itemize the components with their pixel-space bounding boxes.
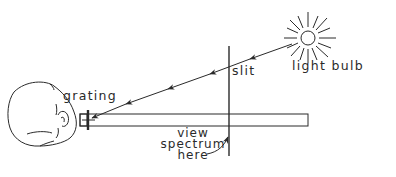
light-bulb-label: light bulb	[292, 60, 364, 73]
light-bulb-icon	[284, 12, 336, 63]
view-label-line3: here	[158, 150, 228, 161]
grating-icon	[80, 110, 95, 130]
slit-label: slit	[232, 65, 256, 78]
grating-label: grating	[63, 90, 117, 103]
view-spectrum-label: view spectrum here	[158, 128, 228, 161]
light-ray	[92, 44, 292, 118]
spectroscope-diagram: light bulb slit grating view spectrum he…	[0, 0, 396, 177]
viewing-tube	[80, 114, 308, 126]
